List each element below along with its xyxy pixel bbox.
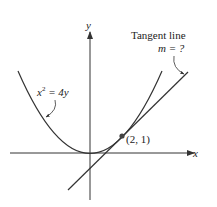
- tangent-point-dot: [119, 133, 124, 138]
- equation-rhs: = 4y: [45, 86, 68, 98]
- x-axis-label: x: [193, 148, 198, 159]
- tangent-label-pointer: [174, 56, 184, 74]
- tangent-slope-label: m = ?: [158, 43, 184, 54]
- y-axis-label: y: [86, 20, 91, 31]
- tangent-line: [68, 72, 188, 190]
- curve-equation-label: x2 = 4y: [37, 86, 69, 98]
- tangent-line-title: Tangent line: [131, 30, 186, 41]
- point-label: (2, 1): [126, 134, 150, 145]
- curve-label-pointer: [46, 100, 56, 117]
